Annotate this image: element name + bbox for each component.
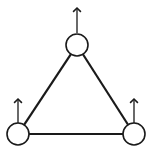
edge-top-bottom-left bbox=[24, 54, 71, 125]
nodes bbox=[7, 34, 145, 145]
node-bottom-right bbox=[123, 123, 145, 145]
edges bbox=[24, 54, 128, 134]
node-bottom-left bbox=[7, 123, 29, 145]
edge-top-bottom-right bbox=[83, 54, 128, 124]
triangle-diagram bbox=[0, 0, 153, 155]
node-top bbox=[66, 34, 88, 56]
